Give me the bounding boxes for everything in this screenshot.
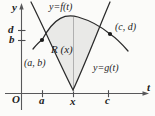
curve-label-g: y=g(t)	[93, 63, 119, 73]
point-label-cd: (c, d)	[115, 22, 136, 32]
x-tick-label-c: c	[105, 95, 110, 106]
point-marker-ab	[40, 38, 44, 42]
y-tick-label-b: b	[9, 34, 15, 45]
point-marker-cd	[108, 32, 112, 36]
point-label-ab: (a, b)	[24, 58, 46, 68]
x-axis-label: t	[147, 82, 150, 93]
origin-label: O	[12, 94, 20, 105]
x-tick-label-a: a	[39, 95, 45, 106]
figure-region-between-curves: y t O d b a x c y=f(t) y=g(t) R (x) (a, …	[0, 0, 155, 116]
y-axis-arrowhead	[19, 3, 23, 10]
region-label: R (x)	[51, 44, 73, 55]
y-axis-label: y	[12, 2, 17, 13]
x-tick-label-x: x	[70, 96, 76, 107]
curve-label-f: y=f(t)	[49, 2, 72, 12]
